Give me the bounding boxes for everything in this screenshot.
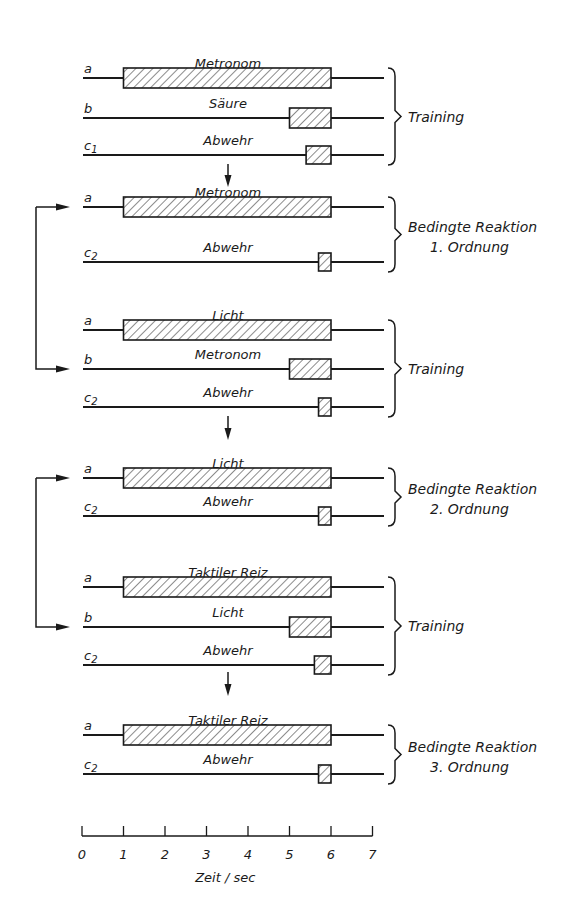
- curly-brace: [388, 68, 401, 165]
- curly-brace: [388, 320, 401, 417]
- stimulus-label: Abwehr: [202, 494, 254, 509]
- row-id-subscript: 2: [91, 763, 97, 774]
- stimulus-bar: [124, 725, 332, 745]
- stimulus-label: Abwehr: [202, 752, 254, 767]
- row-id-label: b: [84, 352, 92, 367]
- feedback-arrow-head-icon: [56, 475, 70, 482]
- row-id-label: b: [84, 610, 92, 625]
- phase-block: aMetronomc2AbwehrBedingte Reaktion1. Ord…: [83, 185, 537, 272]
- stimulus-label: Metronom: [195, 56, 261, 71]
- phase-label: Training: [408, 361, 464, 377]
- row-id-subscript: 2: [91, 396, 97, 407]
- stimulus-label: Abwehr: [202, 240, 254, 255]
- feedback-arrow-head-icon: [56, 366, 70, 373]
- conditioning-timing-diagram: aMetronombSäurec1AbwehrTrainingaMetronom…: [0, 0, 588, 914]
- axis-tick-label: 2: [161, 847, 169, 862]
- row-id-label: c2: [84, 757, 98, 774]
- feedback-arrow-path: [36, 207, 60, 369]
- stimulus-label: Taktiler Reiz: [188, 565, 269, 580]
- timeline-blocks: aMetronombSäurec1AbwehrTrainingaMetronom…: [83, 56, 537, 784]
- feedback-arrow-path: [36, 478, 60, 627]
- row-id-label: c2: [84, 648, 98, 665]
- phase-block: aTaktiler ReizbLichtc2AbwehrTraining: [83, 565, 464, 675]
- phase-label: Training: [408, 109, 464, 125]
- stimulus-bar: [319, 507, 331, 525]
- stimulus-bar: [306, 146, 331, 164]
- stimulus-label: Abwehr: [202, 133, 254, 148]
- row-id-label: b: [84, 101, 92, 116]
- stimulus-label: Metronom: [195, 185, 261, 200]
- time-axis: 01234567Zeit / sec: [78, 826, 378, 885]
- feedback-arrow-head-icon: [56, 204, 70, 211]
- curly-brace: [388, 725, 401, 784]
- curly-brace: [388, 468, 401, 526]
- axis-tick-label: 1: [119, 847, 127, 862]
- stimulus-bar: [124, 577, 332, 597]
- axis-tick-label: 3: [202, 847, 210, 862]
- stimulus-bar: [314, 656, 331, 674]
- row-id-label: a: [84, 61, 92, 76]
- row-id-subscript: 2: [91, 654, 97, 665]
- phase-label: Bedingte Reaktion: [408, 481, 537, 497]
- phase-block: aLichtc2AbwehrBedingte Reaktion2. Ordnun…: [83, 456, 537, 526]
- curly-brace: [388, 577, 401, 675]
- stimulus-label: Abwehr: [202, 643, 254, 658]
- phase-label-order: 2. Ordnung: [430, 501, 509, 517]
- row-id-subscript: 2: [91, 505, 97, 516]
- stimulus-bar: [319, 253, 331, 271]
- stimulus-bar: [290, 108, 332, 128]
- phase-block: aLichtbMetronomc2AbwehrTraining: [83, 308, 464, 417]
- down-arrow-head-icon: [225, 428, 232, 440]
- phase-label-order: 3. Ordnung: [430, 759, 509, 775]
- stimulus-label: Metronom: [195, 347, 261, 362]
- row-id-label: a: [84, 718, 92, 733]
- phase-block: aMetronombSäurec1AbwehrTraining: [83, 56, 464, 165]
- row-id-label: c2: [84, 499, 98, 516]
- row-id-label: c2: [84, 390, 98, 407]
- curly-brace: [388, 197, 401, 272]
- stimulus-label: Säure: [209, 96, 247, 111]
- stimulus-bar: [290, 359, 332, 379]
- row-id-label: a: [84, 190, 92, 205]
- axis-tick-label: 7: [368, 847, 377, 862]
- stimulus-bar: [319, 398, 331, 416]
- stimulus-label: Licht: [212, 456, 244, 471]
- feedback-arrow-head-icon: [56, 624, 70, 631]
- row-id-subscript: 2: [91, 251, 97, 262]
- down-arrow-head-icon: [225, 684, 232, 696]
- axis-title: Zeit / sec: [194, 870, 255, 885]
- row-id-label: c2: [84, 245, 98, 262]
- axis-tick-label: 0: [78, 847, 86, 862]
- phase-label: Training: [408, 618, 464, 634]
- stimulus-label: Licht: [212, 308, 244, 323]
- stimulus-bar: [319, 765, 331, 783]
- phase-label: Bedingte Reaktion: [408, 739, 537, 755]
- axis-tick-label: 6: [327, 847, 335, 862]
- row-id-label: c1: [84, 138, 98, 155]
- flow-arrows: [36, 164, 232, 696]
- phase-label: Bedingte Reaktion: [408, 219, 537, 235]
- row-id-label: a: [84, 461, 92, 476]
- phase-label-order: 1. Ordnung: [430, 239, 509, 255]
- stimulus-bar: [290, 617, 332, 637]
- stimulus-label: Taktiler Reiz: [188, 713, 269, 728]
- phase-block: aTaktiler Reizc2AbwehrBedingte Reaktion3…: [83, 713, 537, 784]
- stimulus-label: Abwehr: [202, 385, 254, 400]
- row-id-label: a: [84, 570, 92, 585]
- axis-tick-label: 5: [285, 847, 293, 862]
- stimulus-bar: [124, 320, 332, 340]
- stimulus-bar: [124, 197, 332, 217]
- row-id-label: a: [84, 313, 92, 328]
- axis-tick-label: 4: [244, 847, 252, 862]
- stimulus-bar: [124, 468, 332, 488]
- stimulus-label: Licht: [212, 605, 244, 620]
- row-id-subscript: 1: [91, 144, 97, 155]
- stimulus-bar: [124, 68, 332, 88]
